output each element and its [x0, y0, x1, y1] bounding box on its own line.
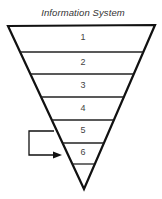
- level-label-5: 5: [73, 125, 93, 135]
- level-label-2: 2: [73, 57, 93, 67]
- level-label-1: 1: [73, 32, 93, 42]
- level-label-4: 4: [73, 103, 93, 113]
- bracket-arrow-icon: [29, 131, 62, 159]
- inverted-triangle-diagram: Information System 1 2 3 4 5 6: [0, 0, 162, 199]
- level-label-6: 6: [73, 147, 93, 157]
- triangle-graphic: [0, 0, 162, 199]
- level-label-3: 3: [73, 80, 93, 90]
